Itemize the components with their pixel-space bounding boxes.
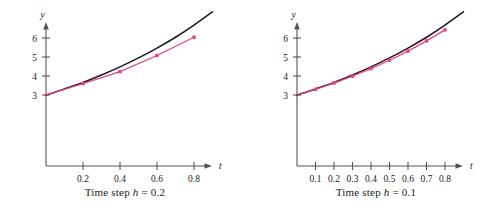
x-tick-label: 0.2 [77, 174, 89, 184]
euler-data-point [192, 36, 195, 39]
x-tick-label: 0.4 [365, 174, 377, 184]
x-tick-label: 0.3 [347, 174, 359, 184]
euler-data-point [155, 54, 158, 57]
y-axis-arrowhead [294, 22, 300, 30]
euler-data-point [425, 39, 428, 42]
plot-area-right: y t 3 4 5 6 0.10.20.30.40.50.60.70.8 [251, 0, 501, 190]
y-tick-label: 4 [283, 72, 288, 82]
caption-prefix: Time step [336, 186, 384, 198]
y-tick-label: 3 [32, 91, 37, 101]
euler-method-figure: y t 3 4 5 6 0.2 0.4 [0, 0, 501, 217]
y-tick-label: 5 [32, 53, 37, 63]
x-tick-group: 0.10.20.30.40.50.60.70.8 [310, 162, 452, 184]
exact-solution-curve [297, 12, 464, 95]
x-tick-label: 0.6 [151, 174, 163, 184]
euler-data-point [443, 28, 446, 31]
y-tick-label: 4 [32, 72, 37, 82]
y-tick-label: 6 [283, 34, 288, 44]
x-tick-label: 0.4 [114, 174, 126, 184]
y-tick-label: 6 [32, 34, 37, 44]
y-axis-arrowhead [43, 22, 49, 30]
y-tick-label: 3 [283, 91, 288, 101]
x-tick-label: 0.7 [421, 174, 433, 184]
x-tick-label: 0.5 [384, 174, 396, 184]
y-tick-group: 3 4 5 6 [283, 34, 301, 101]
x-axis-arrowhead [205, 163, 213, 169]
caption-suffix: = 0.1 [390, 186, 417, 198]
euler-data-point [332, 81, 335, 84]
euler-data-point [351, 74, 354, 77]
x-axis-label: t [219, 161, 222, 171]
x-tick-label: 0.8 [439, 174, 451, 184]
chart-panel-left: y t 3 4 5 6 0.2 0.4 [0, 0, 250, 217]
caption-right: Time step h = 0.1 [251, 186, 501, 198]
x-tick-label: 0.2 [328, 174, 340, 184]
series-group-right [297, 12, 464, 95]
euler-data-point [388, 59, 391, 62]
x-axis-label: t [470, 161, 473, 171]
y-tick-label: 5 [283, 53, 288, 63]
x-axis-arrowhead [456, 163, 464, 169]
euler-data-point [314, 88, 317, 91]
euler-data-point [406, 49, 409, 52]
chart-panel-right: y t 3 4 5 6 0.10.20.30.40.50.60.70.8 [251, 0, 501, 217]
y-tick-group: 3 4 5 6 [32, 34, 50, 101]
x-tick-label: 0.8 [188, 174, 200, 184]
series-group-left [46, 12, 213, 95]
caption-prefix: Time step [85, 186, 133, 198]
caption-left: Time step h = 0.2 [0, 186, 250, 198]
caption-suffix: = 0.2 [139, 186, 166, 198]
y-axis-label: y [39, 10, 45, 20]
euler-data-point [118, 70, 121, 73]
y-axis-label: y [290, 10, 296, 20]
euler-marker-group [81, 36, 195, 86]
euler-data-point [369, 67, 372, 70]
x-tick-label: 0.6 [402, 174, 414, 184]
euler-data-point [81, 82, 84, 85]
x-tick-label: 0.1 [310, 174, 322, 184]
plot-area-left: y t 3 4 5 6 0.2 0.4 [0, 0, 250, 190]
x-tick-group: 0.2 0.4 0.6 0.8 [77, 162, 200, 184]
exact-solution-curve [46, 12, 213, 95]
